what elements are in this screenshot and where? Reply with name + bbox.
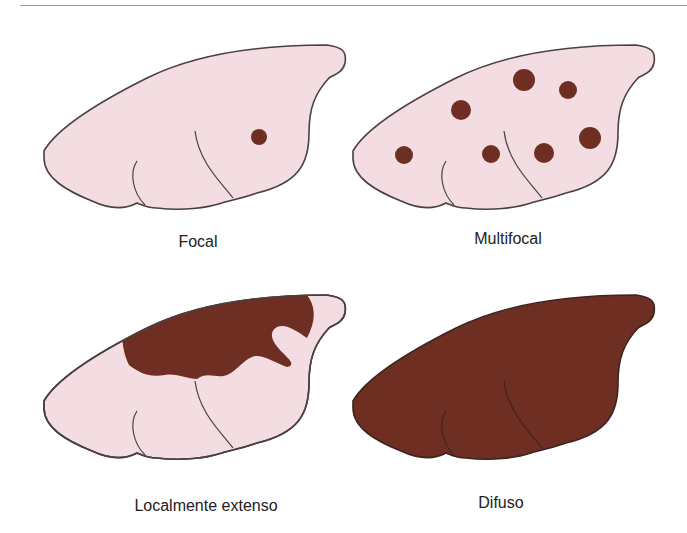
top-rule — [20, 5, 687, 6]
lesion-spot — [395, 146, 413, 164]
lesion-spot — [475, 42, 491, 58]
lesion-spot — [534, 143, 554, 163]
label-focal: Focal — [78, 233, 318, 251]
lesion-spot — [451, 100, 471, 120]
lesion-spot — [559, 81, 577, 99]
label-localmente-extenso: Localmente extenso — [86, 497, 326, 515]
lung-localmente-extenso — [37, 283, 357, 473]
label-difuso: Difuso — [381, 494, 621, 512]
lesion-spot — [513, 69, 535, 91]
lung-difuso — [346, 283, 666, 473]
lung-multifocal — [346, 33, 666, 223]
lesion-spot — [482, 145, 500, 163]
label-multifocal: Multifocal — [388, 230, 628, 248]
lesion-spot — [251, 129, 267, 145]
lesion-spot — [579, 127, 601, 149]
lung-focal — [37, 33, 357, 223]
